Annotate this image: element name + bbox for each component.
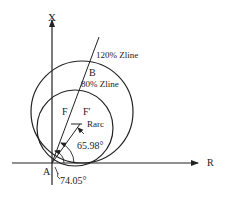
point-f-prime-label: F' — [83, 106, 91, 117]
rarc-pointer — [78, 128, 84, 134]
x-axis-label: X — [48, 11, 56, 23]
outer-circle-label: 120% Zline — [96, 50, 138, 60]
mho-characteristic-diagram: X R A 120% Zline B 80% Zline F F' Rarc 6… — [0, 0, 229, 197]
diagram-canvas: X R A 120% Zline B 80% Zline F F' Rarc 6… — [0, 0, 229, 197]
origin-label: A — [43, 166, 51, 177]
rarc-label: Rarc — [87, 119, 104, 129]
point-b-label: B — [89, 67, 96, 78]
angle-leader-74 — [55, 167, 58, 174]
fault-line — [52, 124, 80, 163]
r-axis-label: R — [207, 157, 214, 168]
angle-74-label: 74.05° — [60, 175, 87, 186]
angle-arc-65 — [61, 143, 74, 163]
angle-65-label: 65.98° — [77, 140, 104, 151]
point-f-label: F — [62, 106, 68, 117]
inner-circle-label: 80% Zline — [81, 79, 119, 89]
